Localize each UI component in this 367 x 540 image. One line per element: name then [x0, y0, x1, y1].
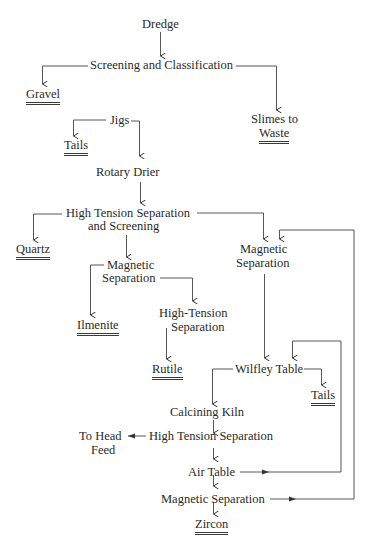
node-air-table: Air Table [188, 465, 235, 479]
product-slimes-waste: Waste [259, 126, 289, 144]
node-mag-sep-left-line2: Separation [102, 271, 155, 285]
product-tails-jigs: Tails [64, 138, 88, 156]
node-rotary-drier: Rotary Drier [96, 165, 160, 179]
flow-connectors [0, 0, 367, 540]
product-quartz: Quartz [16, 242, 50, 260]
node-hts-second: High Tension Separation [149, 429, 273, 443]
node-calcining-kiln: Calcining Kiln [170, 405, 244, 419]
node-jigs: Jigs [110, 113, 129, 127]
product-rutile: Rutile [152, 362, 183, 380]
node-mag-sep-right-line1: Magnetic [240, 242, 287, 256]
node-ht-sep-line1: High-Tension [159, 306, 228, 320]
node-screening-classification: Screening and Classification [90, 58, 233, 72]
product-zircon: Zircon [195, 517, 228, 535]
node-to-head-line2: Feed [91, 443, 115, 457]
node-mag-sep-left-line1: Magnetic [107, 258, 154, 272]
node-mag-sep-right-line2: Separation [236, 256, 289, 270]
product-gravel: Gravel [26, 87, 60, 105]
node-ht-sep-line2: Separation [171, 320, 224, 334]
node-mag-sep-final: Magnetic Separation [161, 492, 265, 506]
node-hts-line2: and Screening [88, 219, 159, 233]
product-tails-wilfley: Tails [311, 388, 335, 406]
node-hts-line1: High Tension Separation [66, 206, 190, 220]
product-ilmenite: Ilmenite [77, 318, 119, 336]
node-slimes-line1: Slimes to [251, 112, 298, 126]
node-dredge: Dredge [142, 17, 179, 31]
node-wilfley-table: Wilfley Table [235, 362, 303, 376]
node-to-head-line1: To Head [79, 429, 122, 443]
